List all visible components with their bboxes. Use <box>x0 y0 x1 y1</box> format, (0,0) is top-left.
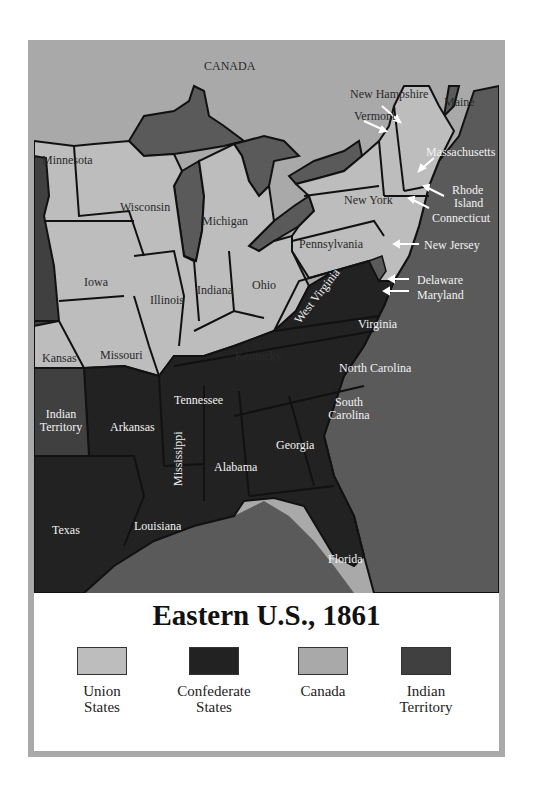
label-texas: Texas <box>52 524 80 537</box>
label-connecticut: Connecticut <box>432 212 490 225</box>
map-area: CANADA New Hampshire Vermont Maine Massa… <box>34 46 499 593</box>
label-illinois: Illinois <box>150 294 184 307</box>
legend-label-line1: Union <box>47 683 157 699</box>
legend-label-line2: States <box>159 699 269 715</box>
label-north-carolina: North Carolina <box>339 362 411 375</box>
label-rhode-island-2: Island <box>454 197 483 210</box>
legend-label-line2: Territory <box>371 699 481 715</box>
legend-label-line2: States <box>47 699 157 715</box>
label-virginia: Virginia <box>358 318 397 331</box>
legend-label-line1: Indian <box>371 683 481 699</box>
label-new-york: New York <box>344 194 393 207</box>
label-minnesota: Minnesota <box>42 154 93 167</box>
legend-swatch-indian-territory <box>401 647 451 675</box>
legend-swatch-confederate <box>189 647 239 675</box>
label-new-hampshire: New Hampshire <box>350 88 428 101</box>
map-title: Eastern U.S., 1861 <box>34 599 499 632</box>
label-vermont: Vermont <box>354 110 395 123</box>
label-louisiana: Louisiana <box>134 520 181 533</box>
label-new-jersey: New Jersey <box>424 239 480 252</box>
label-ohio: Ohio <box>252 279 276 292</box>
legend-swatch-canada <box>298 647 348 675</box>
label-mississippi: Mississippi <box>172 431 185 486</box>
label-kentucky: Kentucky <box>235 350 282 363</box>
label-tennessee: Tennessee <box>174 394 223 407</box>
label-kansas: Kansas <box>42 352 77 365</box>
label-iowa: Iowa <box>84 276 108 289</box>
legend-swatch-union <box>77 647 127 675</box>
label-maryland: Maryland <box>417 289 464 302</box>
legend-label-line1: Confederate <box>159 683 269 699</box>
label-arkansas: Arkansas <box>110 421 155 434</box>
legend-item-union: Union States <box>47 647 157 715</box>
legend-label-line1: Canada <box>268 683 378 699</box>
label-maine: Maine <box>444 96 475 109</box>
legend-item-indian-territory: Indian Territory <box>371 647 481 715</box>
label-missouri: Missouri <box>100 349 143 362</box>
label-delaware: Delaware <box>417 274 463 287</box>
label-indian-territory-2: Territory <box>36 421 86 434</box>
legend-item-canada: Canada <box>268 647 378 699</box>
label-wisconsin: Wisconsin <box>120 201 170 214</box>
label-pennsylvania: Pennsylvania <box>299 238 363 251</box>
label-georgia: Georgia <box>276 439 314 452</box>
legend-item-confederate: Confederate States <box>159 647 269 715</box>
map-shapes <box>34 46 499 593</box>
label-alabama: Alabama <box>214 461 257 474</box>
label-south-carolina-2: Carolina <box>324 409 374 422</box>
label-michigan: Michigan <box>202 215 248 228</box>
label-massachusetts: Massachusetts <box>426 146 495 159</box>
map-frame: CANADA New Hampshire Vermont Maine Massa… <box>28 40 505 757</box>
lake-superior <box>129 86 244 156</box>
label-indiana: Indiana <box>197 284 233 297</box>
label-florida: Florida <box>328 553 363 566</box>
legend-panel: Eastern U.S., 1861 Union States Confeder… <box>34 593 499 751</box>
label-canada: CANADA <box>204 60 255 73</box>
